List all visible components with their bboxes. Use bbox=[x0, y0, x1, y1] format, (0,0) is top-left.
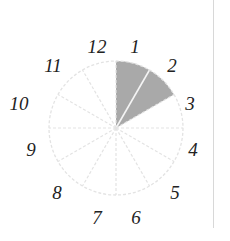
hour-label-3: 3 bbox=[184, 93, 195, 114]
hour-label-5: 5 bbox=[170, 182, 180, 203]
sector-divider bbox=[116, 128, 150, 186]
hour-label-1: 1 bbox=[130, 36, 140, 57]
sector-divider bbox=[58, 95, 116, 129]
hour-label-4: 4 bbox=[188, 139, 198, 160]
vertical-divider bbox=[213, 0, 214, 228]
sector-divider bbox=[58, 128, 116, 162]
clock-fraction-diagram: 121234567891011 bbox=[0, 0, 230, 241]
shaded-sectors bbox=[116, 61, 174, 128]
hour-label-10: 10 bbox=[10, 93, 30, 114]
hour-labels: 121234567891011 bbox=[10, 36, 199, 228]
hour-label-11: 11 bbox=[44, 55, 62, 76]
hour-label-2: 2 bbox=[167, 55, 177, 76]
hour-label-7: 7 bbox=[92, 207, 103, 228]
hour-label-12: 12 bbox=[88, 36, 108, 57]
hour-label-9: 9 bbox=[26, 139, 36, 160]
sector-divider bbox=[116, 128, 174, 162]
sector-divider bbox=[83, 128, 117, 186]
hour-label-6: 6 bbox=[131, 207, 141, 228]
hour-label-8: 8 bbox=[52, 182, 62, 203]
sector-divider bbox=[83, 70, 117, 128]
